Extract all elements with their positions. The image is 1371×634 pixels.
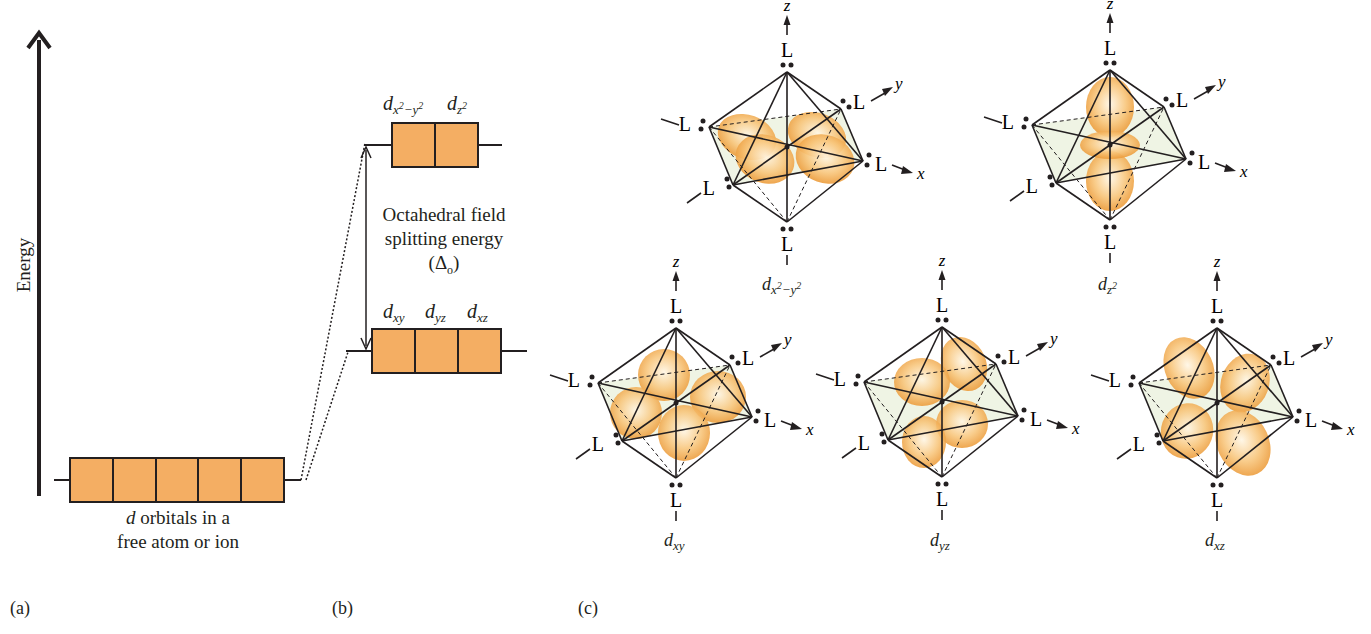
caption-dx2-y2: dx2−y2 [762, 274, 801, 298]
octahedron-dz2 [984, 0, 1248, 263]
panel-c-label: (c) [578, 598, 598, 619]
caption-dxy: dxy [664, 530, 685, 554]
octahedra-svg: L L L L L L z x y [0, 0, 1371, 634]
octahedron-dyz [816, 251, 1080, 520]
caption-dz2: dz2 [1098, 274, 1117, 298]
caption-dxz: dxz [1205, 530, 1225, 554]
octahedron-dxz [1091, 252, 1355, 521]
octahedron-dx2-y2 [661, 0, 925, 265]
caption-dyz: dyz [930, 530, 950, 554]
